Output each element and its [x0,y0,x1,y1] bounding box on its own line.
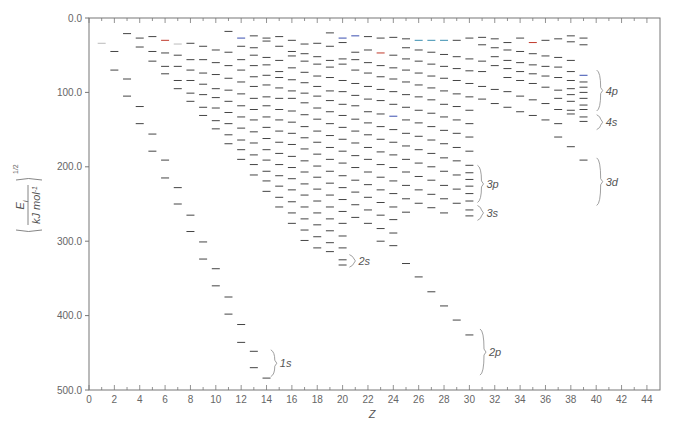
shell-label: 3p [486,178,498,190]
brace-icon [480,329,486,375]
shell-annotation-2p: 2p [480,329,501,375]
brace-icon [597,70,603,111]
shell-annotation-3s: 3s [477,205,498,220]
y-tick-label: 300.0 [57,236,82,247]
x-tick-label: 24 [388,394,400,405]
shell-label: 4s [606,116,618,128]
x-tick-label: 38 [565,394,577,405]
y-tick-label: 500.0 [57,385,82,396]
shell-annotation-4p: 4p [597,70,618,111]
energy-level-markers [98,31,588,378]
shell-label: 2s [357,255,370,267]
shell-label: 3s [486,207,498,219]
x-tick-label: 44 [641,394,653,405]
ionization-energy-chart: 0.0100.0200.0300.0400.0500.0 02468101214… [0,0,676,435]
x-tick-label: 34 [515,394,527,405]
y-title-numerator: Ei [14,200,29,209]
brace-icon [477,205,483,220]
shell-annotation-3p: 3p [477,165,498,202]
shell-annotation-3d: 3d [597,158,619,206]
shell-label: 4p [606,85,618,97]
shell-annotation-1s: 1s [271,350,292,377]
x-axis-title: Z [368,408,377,420]
shell-annotations: 1s2s2p3p3s4p4s3d [271,70,619,377]
x-tick-label: 4 [137,394,143,405]
y-tick-label: 100.0 [57,87,82,98]
x-tick-label: 12 [236,394,248,405]
shell-label: 1s [280,357,292,369]
y-title-exponent: 1/2 [12,164,19,174]
y-axis-title: Ei kJ mol-1 1/2 [12,164,42,231]
x-tick-label: 16 [286,394,298,405]
brace-icon [271,350,277,377]
x-tick-label: 40 [591,394,603,405]
x-tick-label: 6 [162,394,168,405]
x-tick-label: 14 [261,394,273,405]
x-tick-label: 28 [438,394,450,405]
y-axis: 0.0100.0200.0300.0400.0500.0 [57,13,89,396]
shell-label: 3d [606,176,619,188]
x-tick-label: 32 [489,394,501,405]
brace-icon [477,165,483,202]
shell-annotation-4s: 4s [597,115,618,130]
x-tick-label: 30 [464,394,476,405]
shell-annotation-2s: 2s [349,255,370,268]
x-tick-label: 22 [362,394,374,405]
brace-icon [597,158,603,206]
x-tick-label: 26 [413,394,425,405]
x-tick-label: 42 [616,394,628,405]
y-title-denominator: kJ mol-1 [30,186,42,224]
x-tick-label: 2 [112,394,118,405]
brace-icon [597,115,603,130]
brace-icon [349,255,355,268]
y-tick-label: 200.0 [57,161,82,172]
x-tick-label: 0 [86,394,92,405]
y-tick-label: 0.0 [68,13,82,24]
x-axis: 0246810121416182022242628303234363840424… [86,18,653,405]
x-tick-label: 36 [540,394,552,405]
x-tick-label: 20 [337,394,349,405]
y-tick-label: 400.0 [57,310,82,321]
shell-label: 2p [488,346,501,358]
x-tick-label: 18 [312,394,324,405]
x-tick-label: 10 [210,394,222,405]
x-tick-label: 8 [188,394,194,405]
